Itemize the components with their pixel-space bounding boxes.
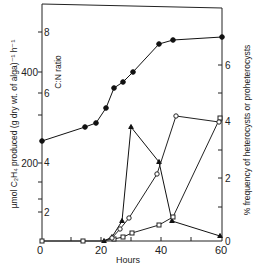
right-tick-0: 0 <box>225 236 231 247</box>
x-axis-title: Hours <box>116 255 141 265</box>
plot-frame <box>42 4 222 241</box>
left-inner-tick-labels: 8 6 4 2 <box>44 27 50 218</box>
x-tick-40: 40 <box>155 244 167 256</box>
series-nitrogenase <box>102 125 223 243</box>
cn-tick-4: 4 <box>44 157 50 168</box>
left-tick-400: 400 <box>21 67 38 78</box>
x-axis-ticks <box>71 237 191 241</box>
cn-tick-8: 8 <box>44 27 50 38</box>
right-axis-title: % frequency of heterocysts or proheteroc… <box>242 45 252 216</box>
right-axis-ticks <box>218 65 222 207</box>
x-tick-0: 0 <box>37 244 43 256</box>
right-tick-6: 6 <box>225 60 231 71</box>
cn-tick-6: 6 <box>44 88 50 99</box>
left-inner-axis-title: C:N ratio <box>53 55 63 89</box>
right-tick-4: 4 <box>225 116 231 127</box>
left-axis-ticks <box>38 32 42 212</box>
left-outer-axis-title: µmol C₂H₄ produced (g dry wt. of alga)⁻¹… <box>9 40 19 209</box>
x-tick-20: 20 <box>95 244 107 256</box>
left-outer-tick-labels: 400 200 <box>21 67 38 169</box>
series-heterocysts <box>40 116 222 243</box>
right-tick-labels: 6 4 2 0 <box>225 60 231 247</box>
right-tick-2: 2 <box>225 173 231 184</box>
chart-figure: 0 20 40 60 Hours 400 200 8 6 4 2 µmol C₂… <box>0 0 256 265</box>
left-tick-200: 200 <box>21 158 38 169</box>
cn-tick-2: 2 <box>44 207 50 218</box>
